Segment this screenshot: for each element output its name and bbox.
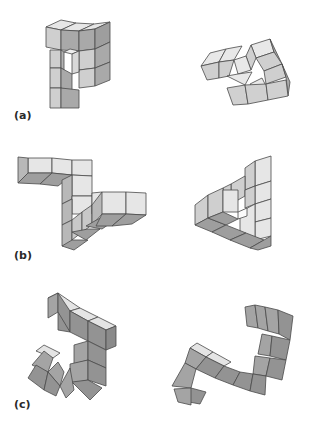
- object-a-left: [46, 20, 110, 108]
- object-b-right: [195, 156, 271, 250]
- figure-canvas: [0, 0, 310, 427]
- object-c-left: [28, 293, 116, 400]
- object-a-right: [201, 39, 290, 105]
- object-b-left: [18, 157, 146, 250]
- object-c-right: [172, 305, 293, 405]
